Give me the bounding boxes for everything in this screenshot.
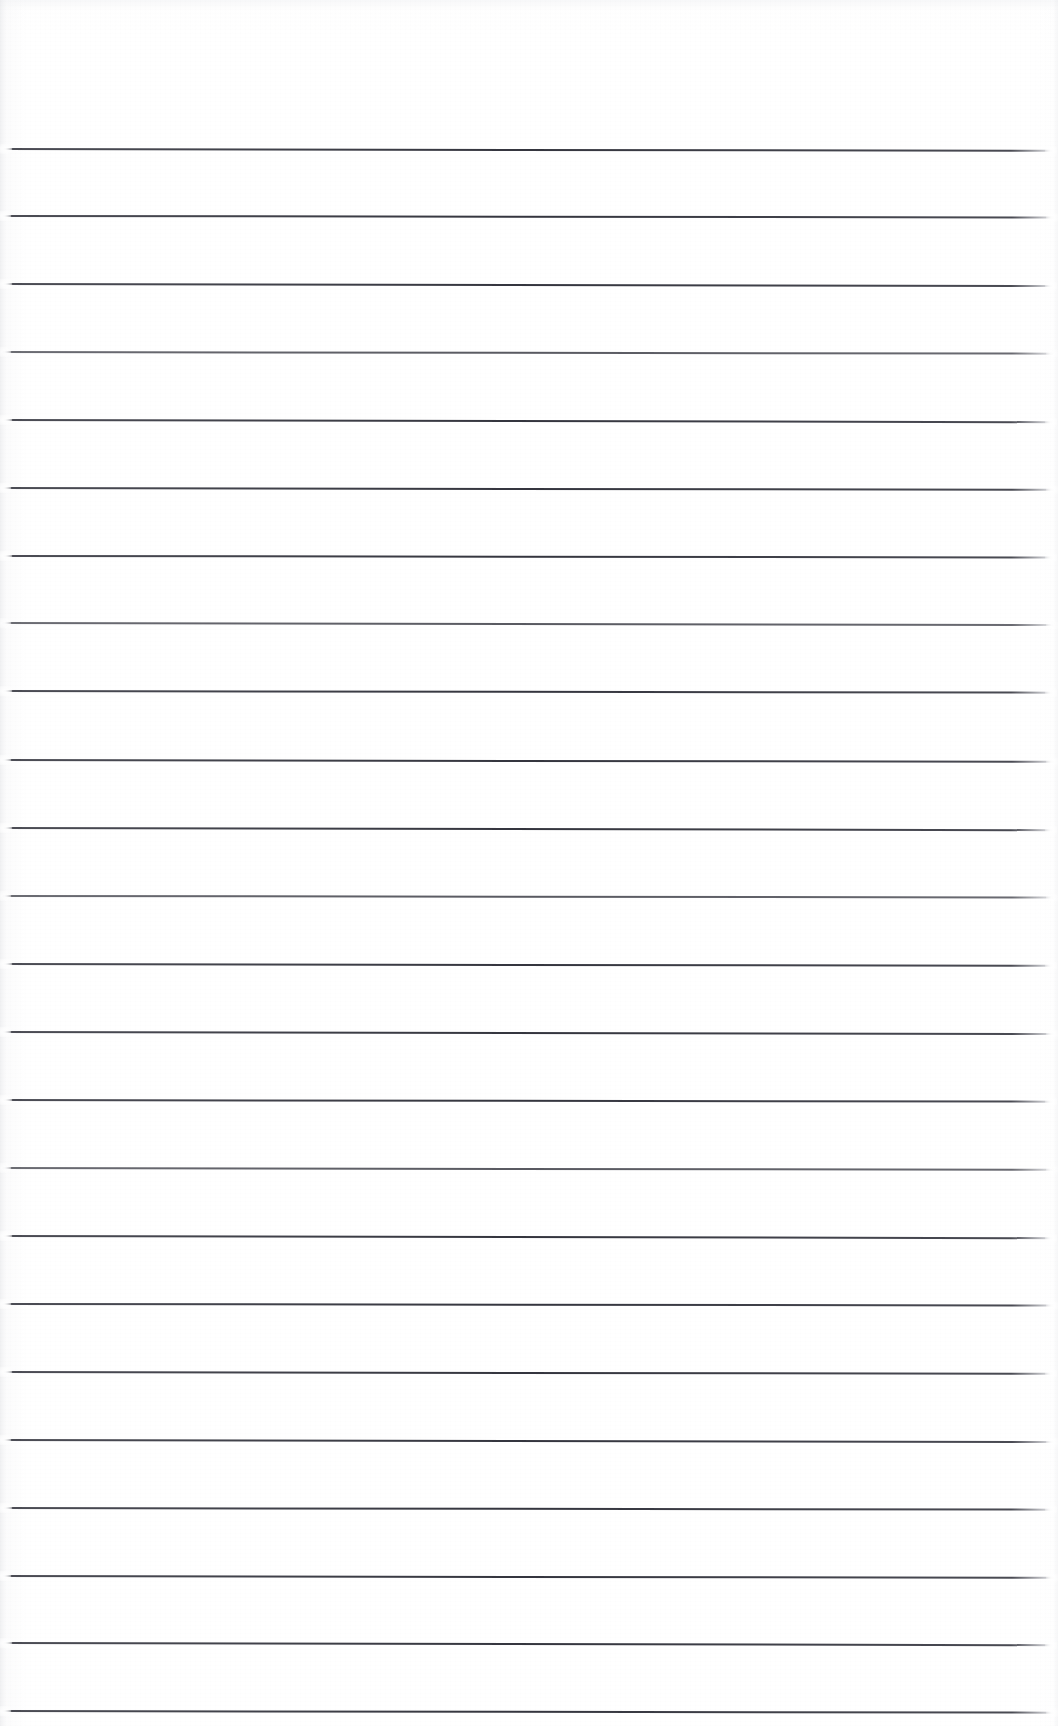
rule-line — [3, 283, 1053, 287]
rule-line — [3, 555, 1053, 558]
rule-line — [2, 1303, 1054, 1306]
rule-line — [2, 1439, 1054, 1443]
rule-line — [2, 622, 1054, 626]
rule-line — [3, 1099, 1053, 1103]
rule-line — [2, 1031, 1054, 1035]
rule-line — [2, 759, 1054, 763]
rule-line — [2, 487, 1054, 491]
rule-line — [3, 827, 1053, 831]
rule-line — [2, 1575, 1054, 1579]
rule-line — [3, 148, 1053, 152]
rule-line — [2, 351, 1054, 355]
scanned-page — [0, 0, 1058, 1726]
rule-line — [3, 963, 1053, 967]
rule-line — [2, 895, 1054, 898]
rule-line — [3, 1371, 1053, 1375]
rule-line — [3, 1507, 1053, 1511]
rule-line — [3, 1235, 1053, 1239]
rule-line — [3, 419, 1053, 423]
rule-line — [2, 1710, 1054, 1714]
rule-line — [3, 690, 1053, 694]
ruled-line-layer — [0, 0, 1058, 1726]
rule-line — [2, 1167, 1054, 1171]
rule-line — [2, 215, 1054, 218]
rule-line — [3, 1642, 1053, 1646]
